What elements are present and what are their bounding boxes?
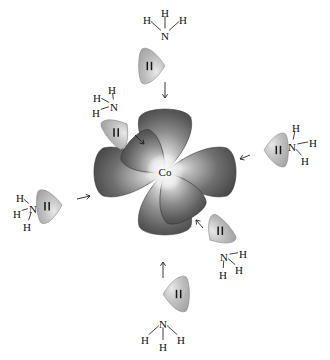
metal-symbol-text: Co [159,166,172,178]
ammonia-lower-right-hydrogen-label: H [239,248,247,260]
n-h-bond [22,209,28,211]
ammonia-top-nitrogen-label: N [161,30,169,42]
ammonia-top: NHHH [139,7,187,98]
ammonia-lower-right-nitrogen-label: N [220,251,228,263]
ammonia-upper-left-hydrogen-label: H [108,84,116,96]
n-h-bond [169,21,179,30]
n-h-bond [229,253,238,254]
coordination-complex-diagram: Co NHHHNHHHNHHHNHHHNHHHNHHH [0,0,330,360]
ammonia-right-hydrogen-label: H [309,137,317,149]
ammonia-top-hydrogen-label: H [179,14,187,26]
n-h-bond [101,98,109,102]
ammonia-bottom-hydrogen-label: H [159,341,167,353]
ammonia-left-hydrogen-label: H [16,192,24,204]
ammonia-bottom-nitrogen-label: N [159,318,167,330]
ammonia-left: NHHH [13,188,90,233]
n-h-bond [167,326,177,335]
ammonia-right-hydrogen-label: H [301,155,309,167]
ammonia-right-nitrogen-label: N [288,141,296,153]
metal-atom-label: Co [159,166,172,178]
diagram-canvas: Co NHHHNHHHNHHHNHHHNHHHNHHH [0,0,330,360]
arrowhead [86,194,90,196]
ammonia-left-hydrogen-label: H [23,221,31,233]
arrowhead [240,159,244,160]
ammonia-right-hydrogen-label: H [292,122,300,134]
ammonia-bottom: NHHH [141,262,189,353]
ammonia-lower-right-hydrogen-label: H [235,264,243,276]
ammonia-upper-left-hydrogen-label: H [92,107,100,119]
n-h-bond [151,21,161,30]
ammonia-upper-left-hydrogen-label: H [93,92,101,104]
ammonia-left-nitrogen-label: N [29,203,37,215]
n-h-bond [101,107,109,110]
ammonia-lower-right-hydrogen-label: H [219,269,227,281]
ammonia-top-hydrogen-label: H [161,7,169,19]
arrowhead [196,220,197,225]
ammonia-left-hydrogen-label: H [13,208,21,220]
ammonia-lower-right: NHHH [196,212,247,281]
ammonia-right: NHHH [240,122,317,167]
ammonia-bottom-hydrogen-label: H [177,334,185,346]
ammonia-upper-left-nitrogen-label: N [110,101,118,113]
n-h-bond [149,326,159,335]
ammonia-top-hydrogen-label: H [143,14,151,26]
ammonia-bottom-hydrogen-label: H [141,334,149,346]
n-h-bond [297,142,308,144]
